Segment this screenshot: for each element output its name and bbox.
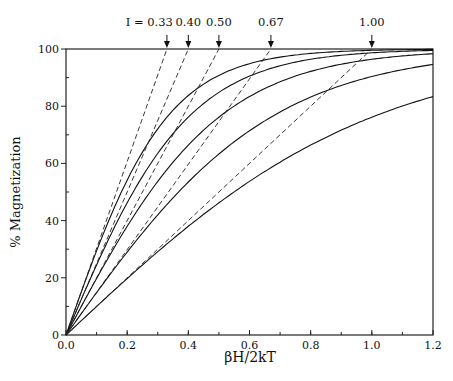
arrow-head-icon	[369, 41, 375, 48]
tangent-line-0.40	[66, 49, 188, 335]
curve-0.33	[66, 49, 433, 335]
spin-label-0.50: 0.50	[206, 15, 232, 29]
y-tick-label: 60	[45, 157, 59, 170]
spin-label-1.00: 1.00	[359, 15, 385, 29]
tangent-line-0.50	[66, 49, 219, 335]
x-tick-label: 0.8	[302, 339, 320, 352]
spin-label-0.33: I = 0.33	[126, 15, 173, 29]
arrow-head-icon	[216, 41, 222, 48]
curve-0.67	[66, 65, 433, 336]
spin-annotations: I = 0.330.400.500.671.00	[126, 15, 385, 48]
y-axis-label: % Magnetization	[8, 136, 23, 248]
arrow-head-icon	[185, 41, 191, 48]
arrow-head-icon	[164, 41, 170, 48]
y-tick-label: 20	[45, 272, 59, 285]
tangent-line-0.67	[66, 49, 271, 335]
y-tick-label: 80	[45, 100, 59, 113]
magnetization-chart: 0.00.20.40.60.81.01.2020406080100 I = 0.…	[0, 0, 453, 381]
x-axis-label: βH/2kT	[224, 349, 276, 365]
y-tick-label: 0	[52, 329, 59, 342]
axes: 0.00.20.40.60.81.01.2020406080100	[38, 43, 442, 352]
x-tick-label: 0.4	[180, 339, 198, 352]
spin-label-0.40: 0.40	[176, 15, 202, 29]
y-tick-label: 40	[45, 215, 59, 228]
curves	[66, 49, 433, 335]
x-tick-label: 1.0	[363, 339, 381, 352]
y-tick-label: 100	[38, 43, 59, 56]
x-tick-label: 0.2	[118, 339, 136, 352]
curve-1.00	[66, 97, 433, 335]
x-tick-label: 0.0	[57, 339, 75, 352]
x-tick-label: 1.2	[424, 339, 442, 352]
arrow-head-icon	[268, 41, 274, 48]
spin-label-0.67: 0.67	[258, 15, 284, 29]
curve-0.50	[66, 54, 433, 335]
